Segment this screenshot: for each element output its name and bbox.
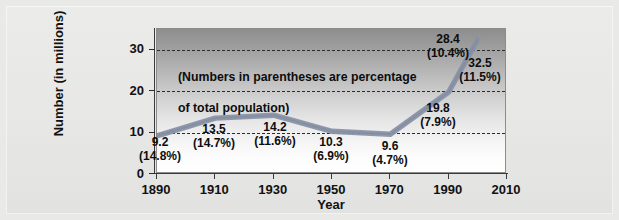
x-tick-mark-1950 <box>331 173 332 179</box>
point-value-1970: 9.6 <box>364 139 416 153</box>
y-tick-mark-10 <box>149 132 155 133</box>
point-percent-32-5: (11.5%) <box>454 70 506 84</box>
y-tick-label-30: 30 <box>120 41 144 56</box>
point-label-1910: 13.5 (14.7%) <box>186 122 242 151</box>
point-value-1930: 14.2 <box>247 120 303 134</box>
point-value-28-4: 28.4 <box>422 32 474 46</box>
x-tick-mark-1970 <box>389 173 390 179</box>
y-tick-mark-20 <box>149 90 155 91</box>
y-tick-label-0: 0 <box>120 166 144 181</box>
x-tick-mark-2010 <box>506 173 507 179</box>
chart-annotation: (Numbers in parentheses are percentage o… <box>178 54 417 117</box>
point-percent-1930: (11.6%) <box>247 134 303 148</box>
x-tick-label-1950: 1950 <box>308 182 354 197</box>
point-percent-1950: (6.9%) <box>305 149 357 163</box>
y-tick-label-20: 20 <box>120 83 144 98</box>
point-value-1990: 19.8 <box>412 101 464 115</box>
y-axis-title: Number (in millions) <box>51 0 66 154</box>
x-tick-mark-1990 <box>448 173 449 179</box>
point-value-1890: 9.2 <box>134 135 186 149</box>
point-label-1890: 9.2 (14.8%) <box>134 135 186 164</box>
point-label-1990: 19.8 (7.9%) <box>412 101 464 130</box>
y-tick-mark-30 <box>149 49 155 50</box>
point-percent-1970: (4.7%) <box>364 153 416 167</box>
chart-figure: 30 20 10 0 1890 1910 1930 1950 1970 1990… <box>0 0 619 220</box>
y-tick-mark-0 <box>149 173 155 174</box>
point-value-32-5: 32.5 <box>454 56 506 70</box>
point-value-1910: 13.5 <box>186 122 242 136</box>
figure-canvas: 30 20 10 0 1890 1910 1930 1950 1970 1990… <box>6 6 613 214</box>
point-label-1970: 9.6 (4.7%) <box>364 139 416 168</box>
point-label-32-5: 32.5 (11.5%) <box>454 56 506 85</box>
point-percent-1990: (7.9%) <box>412 115 464 129</box>
x-tick-mark-1910 <box>214 173 215 179</box>
x-tick-label-1970: 1970 <box>366 182 412 197</box>
point-label-1950: 10.3 (6.9%) <box>305 135 357 164</box>
x-tick-mark-1930 <box>273 173 274 179</box>
x-tick-label-1910: 1910 <box>191 182 237 197</box>
x-tick-label-1930: 1930 <box>250 182 296 197</box>
x-axis-title: Year <box>156 197 506 212</box>
x-tick-label-2010: 2010 <box>483 182 529 197</box>
annotation-line-2: of total population) <box>178 101 289 115</box>
x-tick-label-1990: 1990 <box>425 182 471 197</box>
annotation-line-1: (Numbers in parentheses are percentage <box>178 70 417 84</box>
point-label-1930: 14.2 (11.6%) <box>247 120 303 149</box>
x-tick-mark-1890 <box>156 173 157 179</box>
x-tick-label-1890: 1890 <box>133 182 179 197</box>
point-value-1950: 10.3 <box>305 135 357 149</box>
point-percent-1890: (14.8%) <box>134 149 186 163</box>
point-percent-1910: (14.7%) <box>186 136 242 150</box>
